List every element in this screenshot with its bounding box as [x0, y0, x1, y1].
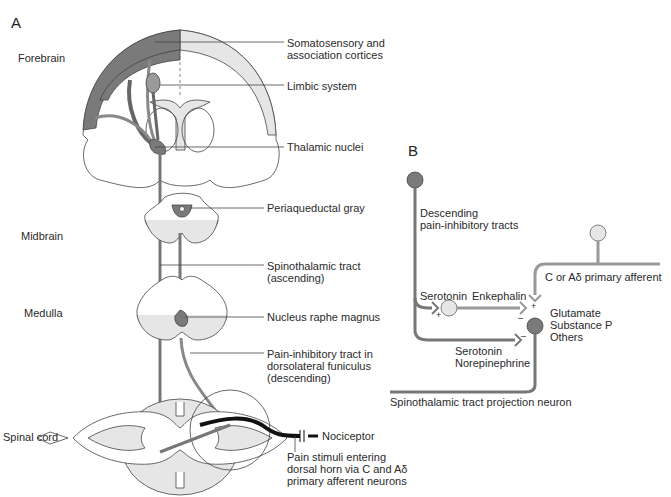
callout-spinothalamic-tract: Spinothalamic tract (ascending): [267, 260, 361, 284]
callout-periaqueductal-gray: Periaqueductal gray: [267, 202, 365, 214]
callout-nociceptor: Nociceptor: [322, 430, 375, 442]
region-medulla: Medulla: [24, 307, 63, 319]
spinal-cord-section: [37, 390, 287, 495]
callout-nucleus-raphe-magnus: Nucleus raphe magnus: [267, 311, 380, 323]
label-serotonin-norepinephrine: Serotonin Norepinephrine: [455, 345, 530, 369]
forebrain-section: [83, 30, 279, 188]
midbrain-section: [145, 193, 218, 243]
sign-plus-serotonin: +: [436, 309, 441, 321]
sign-minus-enkephalin: –: [518, 312, 523, 324]
region-spinal-cord: Spinal cord: [3, 431, 58, 443]
medulla-section: [137, 276, 227, 340]
sign-plus-afferent: +: [531, 300, 536, 312]
region-forebrain: Forebrain: [18, 52, 65, 64]
label-serotonin: Serotonin: [420, 290, 467, 302]
label-transmitters: Glutamate Substance P Others: [550, 307, 612, 343]
callout-pain-stimuli: Pain stimuli entering dorsal horn via C …: [287, 451, 407, 487]
panel-b-label: B: [408, 142, 418, 159]
label-primary-afferent: C or Aδ primary afferent: [545, 271, 662, 283]
callout-cortices: Somatosensory and association cortices: [287, 37, 385, 61]
sign-minus-descending: –: [521, 330, 526, 342]
region-midbrain: Midbrain: [21, 230, 63, 242]
label-projection-neuron: Spinothalamic tract projection neuron: [390, 396, 572, 408]
callout-thalamic-nuclei: Thalamic nuclei: [287, 141, 363, 153]
panel-a-label: A: [11, 14, 21, 31]
diagram-canvas: [0, 0, 671, 497]
label-enkephalin: Enkephalin: [472, 290, 526, 302]
callout-pain-inhibitory-tract: Pain-inhibitory tract in dorsolateral fu…: [267, 348, 373, 384]
label-descending-tracts: Descending pain-inhibitory tracts: [420, 207, 518, 231]
callout-limbic-system: Limbic system: [287, 80, 357, 92]
